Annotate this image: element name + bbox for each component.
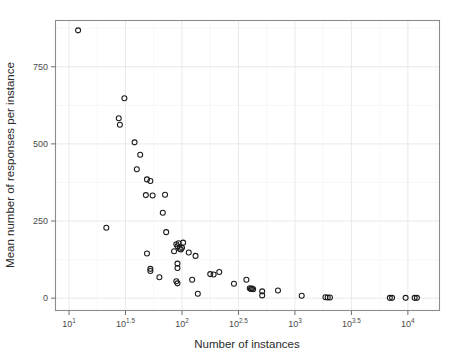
x-axis-title: Number of instances [194, 338, 300, 350]
y-axis-title: Mean number of responses per instance [4, 62, 16, 268]
y-tick-label: 0 [43, 293, 48, 303]
y-tick-label: 750 [33, 62, 48, 72]
plot-svg: 101101.5102102.5103103.5104 0250500750 N… [0, 0, 459, 359]
y-tick-label: 500 [33, 139, 48, 149]
panel-background [56, 21, 440, 311]
y-tick-label: 250 [33, 216, 48, 226]
scatter-plot-figure: 101101.5102102.5103103.5104 0250500750 N… [0, 0, 459, 359]
